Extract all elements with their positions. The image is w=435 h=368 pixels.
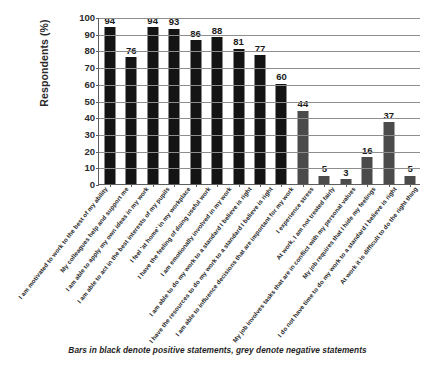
y-tick-label: 90 [84,30,95,40]
y-tick-label: 10 [84,164,95,174]
bar-value-label: 44 [298,99,309,109]
bar [405,176,416,184]
gridline [99,168,420,169]
gridline [99,85,420,86]
y-tick-label: 40 [84,113,95,123]
y-tick-label: 100 [79,13,95,23]
y-tick-mark [96,51,99,52]
y-tick-label: 20 [84,147,95,157]
bar-value-label: 88 [212,26,223,36]
y-tick-mark [96,18,99,19]
y-tick-label: 70 [84,63,95,73]
y-tick-mark [96,168,99,169]
y-tick-mark [96,68,99,69]
y-axis-title: Respondents (%) [38,0,50,133]
y-tick-mark [96,118,99,119]
bar [362,157,373,184]
bar-value-label: 60 [276,72,287,82]
bar-chart: Respondents (%) 947694938688817760445316… [0,0,435,368]
gridline [99,68,420,69]
gridline [99,102,420,103]
gridline [99,35,420,36]
gridline [99,51,420,52]
y-tick-mark [96,102,99,103]
bar-value-label: 81 [233,37,244,47]
plot-area: 947694938688817760445316375 010203040506… [98,18,420,185]
y-tick-label: 50 [84,97,95,107]
y-tick-mark [96,152,99,153]
y-tick-mark [96,35,99,36]
y-tick-label: 30 [84,130,95,140]
bar-value-label: 86 [190,29,201,39]
bar [126,57,137,184]
gridline [99,118,420,119]
bar-value-label: 76 [126,46,137,56]
bar-value-label: 16 [362,146,373,156]
y-tick-mark [96,135,99,136]
y-tick-label: 80 [84,47,95,57]
y-tick-label: 60 [84,80,95,90]
chart-caption: Bars in black denote positive statements… [0,345,435,355]
bar-value-label: 94 [147,16,158,26]
bar [297,111,308,184]
x-axis-category-labels: I am motivated to work to the best of my… [0,186,435,336]
y-tick-mark [96,85,99,86]
bar [383,122,394,184]
bar [212,37,223,184]
bar [190,40,201,184]
gridline [99,135,420,136]
bar-value-label: 94 [104,16,115,26]
bar [319,176,330,184]
gridline [99,152,420,153]
bar [254,55,265,184]
gridline [99,18,420,19]
